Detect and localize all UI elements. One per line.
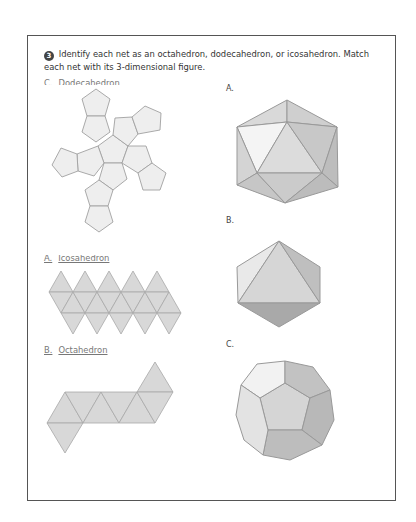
icosahedron-net (49, 271, 181, 334)
octahedron-3d (237, 241, 320, 327)
shapes-canvas (0, 0, 416, 522)
icosahedron-3d (237, 100, 338, 203)
octahedron-net (47, 362, 173, 453)
dodecahedron-net-faces (40, 85, 200, 255)
dodecahedron-3d (236, 361, 334, 460)
